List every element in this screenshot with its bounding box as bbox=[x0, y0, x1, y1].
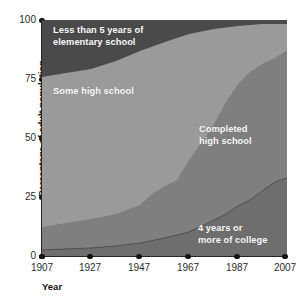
y-tick-label-25: 25 bbox=[10, 191, 36, 202]
x-tick-dot-1907 bbox=[39, 254, 45, 260]
chart-figure: Percentage of adult population 100 75 50… bbox=[0, 0, 307, 298]
x-axis-title: Year bbox=[42, 281, 62, 292]
x-tick-dot-1967 bbox=[185, 254, 191, 260]
series-label-some-high-school: Some high school bbox=[53, 86, 134, 98]
x-tick-dot-2007 bbox=[282, 254, 288, 260]
x-tick-label-1967: 1967 bbox=[168, 262, 208, 273]
y-axis-tick-labels: 100 75 50 25 0 bbox=[8, 0, 36, 298]
series-label-less-than-5-years-elementary: Less than 5 years of elementary school bbox=[53, 25, 143, 48]
x-tick-dot-1987 bbox=[234, 254, 240, 260]
x-tick-label-2007: 2007 bbox=[265, 262, 305, 273]
x-tick-label-1907: 1907 bbox=[22, 262, 62, 273]
series-label-four-years-or-more-college: 4 years or more of college bbox=[198, 223, 267, 246]
y-tick-label-75: 75 bbox=[10, 73, 36, 84]
x-tick-dot-1947 bbox=[136, 254, 142, 260]
y-tick-label-50: 50 bbox=[10, 132, 36, 143]
y-tick-label-100: 100 bbox=[10, 14, 36, 25]
series-label-completed-high-school: Completed high school bbox=[199, 124, 252, 147]
y-tick-label-0: 0 bbox=[10, 250, 36, 261]
x-axis-line bbox=[42, 256, 287, 257]
y-axis-line bbox=[41, 20, 42, 257]
x-tick-label-1927: 1927 bbox=[70, 262, 110, 273]
x-tick-dot-1927 bbox=[87, 254, 93, 260]
x-tick-label-1947: 1947 bbox=[119, 262, 159, 273]
x-tick-label-1987: 1987 bbox=[217, 262, 257, 273]
